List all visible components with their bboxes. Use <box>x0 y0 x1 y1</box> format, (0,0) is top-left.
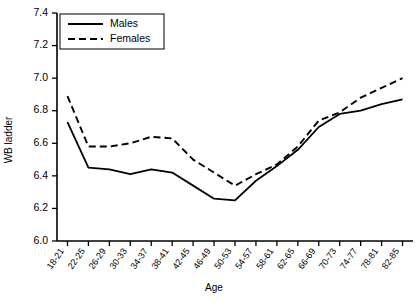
x-tick-label: 62-65 <box>275 246 296 271</box>
y-tick-label: 7.4 <box>33 6 48 18</box>
x-tick-label: 74-77 <box>338 246 359 271</box>
x-tick-label: 78-81 <box>359 246 380 271</box>
y-axis-title: WB ladder <box>3 116 14 163</box>
x-tick-label: 18-21 <box>45 246 66 271</box>
chart-legend: Males Females <box>60 14 164 49</box>
x-tick-label: 82-85 <box>380 246 401 271</box>
series-line-females <box>67 78 402 185</box>
x-tick-label: 70-73 <box>317 246 338 271</box>
y-tick-label: 6.6 <box>33 136 48 148</box>
chart-container: WB ladder 6.06.26.46.66.87.07.27.4 18-21… <box>0 0 420 306</box>
x-tick-label: 42-45 <box>170 246 191 271</box>
x-axis-tick-labels: 18-2122-2526-2930-3334-3738-4142-4546-49… <box>45 246 401 271</box>
x-tick-label: 38-41 <box>149 246 170 271</box>
x-tick-label: 66-69 <box>296 246 317 271</box>
legend-label-males: Males <box>110 17 138 29</box>
line-chart: WB ladder 6.06.26.46.66.87.07.27.4 18-21… <box>0 0 420 306</box>
x-tick-label: 26-29 <box>87 246 108 271</box>
y-tick-label: 7.2 <box>33 38 48 50</box>
x-tick-label: 50-53 <box>212 246 233 271</box>
x-axis-title: Age <box>205 282 223 293</box>
y-tick-label: 6.2 <box>33 201 48 213</box>
y-tick-label: 6.0 <box>33 234 48 246</box>
y-tick-label: 7.0 <box>33 71 48 83</box>
legend-label-females: Females <box>110 32 150 44</box>
y-tick-label: 6.8 <box>33 103 48 115</box>
x-tick-label: 54-57 <box>233 246 254 271</box>
x-tick-label: 34-37 <box>128 246 149 271</box>
x-tick-label: 22-25 <box>66 246 87 271</box>
y-axis-ticks: 6.06.26.46.66.87.07.27.4 <box>33 6 57 246</box>
y-tick-label: 6.4 <box>33 169 48 181</box>
x-tick-label: 30-33 <box>108 246 129 271</box>
x-tick-label: 58-61 <box>254 246 275 271</box>
x-tick-label: 46-49 <box>191 246 212 271</box>
series-line-males <box>67 99 402 200</box>
